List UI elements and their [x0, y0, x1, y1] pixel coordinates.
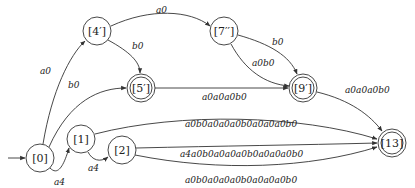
edge-2-13-straight: [136, 143, 377, 148]
edge-label: a0b0a0a0a0b0a0a0a0b0: [185, 119, 297, 129]
state-1: [1]: [67, 125, 95, 153]
diagram-svg: a0 b0 a4 a4 a0 b0 a0a0a0b0 b0 a0b0 a0a0a…: [0, 0, 415, 188]
edge-9p-13: [317, 92, 382, 131]
state-13: [13]: [378, 129, 406, 157]
state-label: [5′]: [132, 82, 150, 95]
edge-label: a0: [156, 5, 167, 15]
automaton-diagram: a0 b0 a4 a4 a0 b0 a0a0a0b0 b0 a0b0 a0a0a…: [0, 0, 415, 188]
state-2: [2]: [108, 136, 136, 164]
state-9p: [9′]: [289, 74, 317, 102]
edge-label: b0: [272, 37, 284, 47]
edge-7pp-9p-b0: [238, 35, 297, 74]
state-0: [0]: [26, 144, 54, 172]
edge-label: a4: [88, 163, 99, 173]
state-5p: [5′]: [127, 74, 155, 102]
state-label: [2]: [114, 144, 130, 157]
edge-1-2: [88, 152, 108, 160]
state-4p: [4′]: [83, 17, 111, 45]
state-label: [13]: [381, 137, 404, 150]
edge-label: a0b0: [252, 58, 275, 68]
edge-label: a0a0a0b0: [202, 92, 247, 102]
edge-label: a0a0a0b0: [345, 85, 390, 95]
edge-label: a4a0b0a0a0a0b0a0a0a0b0: [180, 149, 303, 159]
state-label: [7′′]: [214, 25, 235, 38]
edge-label: a4: [54, 177, 65, 187]
state-label: [4′]: [88, 25, 106, 38]
edge-4p-7pp: [111, 13, 210, 26]
state-7pp: [7′′]: [210, 17, 238, 45]
edge-label: a0b0a0a0a0b0a0a0a0b0: [185, 175, 297, 185]
edge-label: a0: [40, 66, 51, 76]
state-label: [9′]: [294, 82, 312, 95]
edge-label: b0: [68, 80, 80, 90]
state-label: [1]: [73, 133, 89, 146]
state-label: [0]: [32, 152, 48, 165]
edge-label: b0: [132, 41, 144, 51]
